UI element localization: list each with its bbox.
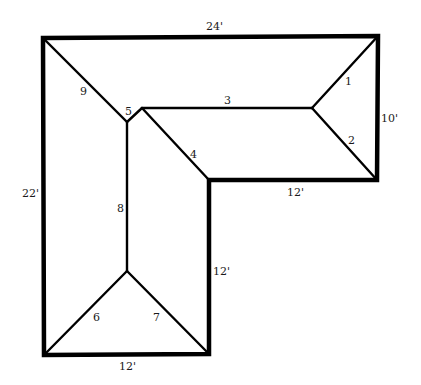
label-8: 8 [117,202,124,215]
dimension-bottom: 12' [119,360,136,373]
hip-line-1 [312,36,378,108]
roof-perimeter [43,36,378,355]
dimension-inner-vertical: 12' [213,265,230,278]
label-5: 5 [125,105,132,118]
label-7: 7 [153,311,160,324]
hip-line-6 [44,271,127,355]
dimension-top: 24' [206,20,223,33]
roof-plan-diagram: 24' 22' 10' 12' 12' 12' 1 2 3 4 5 6 7 8 … [0,0,421,385]
dimension-inner-bottom-right: 12' [287,186,304,199]
label-3: 3 [224,94,231,107]
label-4: 4 [190,148,197,161]
hip-line-2 [312,108,377,180]
dimension-right: 10' [381,112,398,125]
valley-line-4 [142,108,209,180]
dimension-left: 22' [22,187,39,200]
label-6: 6 [93,311,100,324]
label-9: 9 [80,85,87,98]
label-2: 2 [348,134,355,147]
hip-line-9 [43,38,127,122]
label-1: 1 [345,75,352,88]
hip-line-7 [127,271,209,354]
